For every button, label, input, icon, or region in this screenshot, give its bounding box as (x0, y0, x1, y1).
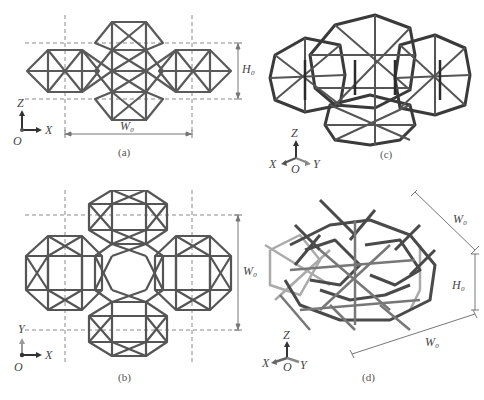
lattice-isometric-drawing (260, 0, 484, 175)
axis-label-y-c: Y (313, 157, 320, 172)
axis-label-o-c: O (291, 162, 300, 177)
axis-label-y-d: Y (300, 358, 307, 373)
lattice-top-view-drawing (0, 190, 260, 390)
panel-label-d: (d) (362, 371, 375, 383)
axis-label-z: Z (17, 96, 24, 111)
panel-label-c: (c) (380, 148, 392, 160)
axis-label-z-c: Z (291, 126, 298, 141)
axes-triad-xy (19, 338, 42, 358)
panel-label-a: (a) (118, 146, 130, 158)
axis-label-x: X (45, 123, 52, 138)
figure-caption (150, 386, 380, 394)
dim-label-w0-diag: W₀ (453, 212, 467, 227)
dim-label-h0-d: H₀ (452, 278, 465, 293)
axis-label-x-b: X (45, 348, 52, 363)
unit-cell-isometric-drawing (260, 190, 484, 390)
lattice-front-view-drawing (0, 0, 242, 165)
panel-d-unit-cell: W₀ H₀ W₀ Z X O Y (d) (260, 190, 484, 390)
panel-label-b: (b) (118, 371, 131, 383)
axis-label-o: O (13, 134, 22, 149)
dim-label-h0-a: H₀ (242, 62, 255, 77)
panel-c-isometric-lattice: Z X O Y (c) (260, 0, 484, 175)
axis-label-z-d: Z (283, 328, 290, 343)
axis-label-x-c: X (269, 157, 276, 172)
panel-a-front-view: H₀ W₀ Z X O (a) (0, 0, 242, 165)
dim-label-w0-bottom: W₀ (425, 335, 439, 350)
axis-label-x-d: X (262, 356, 269, 371)
dim-label-w0-b: W₀ (243, 264, 257, 279)
axis-label-y: Y (18, 322, 25, 337)
axis-label-o-d: O (283, 360, 292, 375)
axes-triad-xz (19, 110, 42, 133)
panel-b-top-view: W₀ Y X O (b) (0, 190, 260, 390)
dim-label-w0: W₀ (120, 119, 134, 134)
axis-label-o-b: O (14, 360, 23, 375)
